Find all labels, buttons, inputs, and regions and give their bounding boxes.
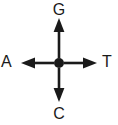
axis-label-right: T xyxy=(102,54,118,70)
arrow-left-icon xyxy=(21,58,54,69)
arrow-right-icon xyxy=(64,58,97,69)
axis-label-bottom: C xyxy=(49,106,69,122)
diagram-canvas: G T C A xyxy=(0,0,118,125)
arrow-down-icon xyxy=(54,68,65,102)
center-node xyxy=(54,58,64,68)
axis-label-left: A xyxy=(1,54,17,70)
axis-label-top: G xyxy=(49,2,69,18)
arrow-up-icon xyxy=(54,18,65,58)
